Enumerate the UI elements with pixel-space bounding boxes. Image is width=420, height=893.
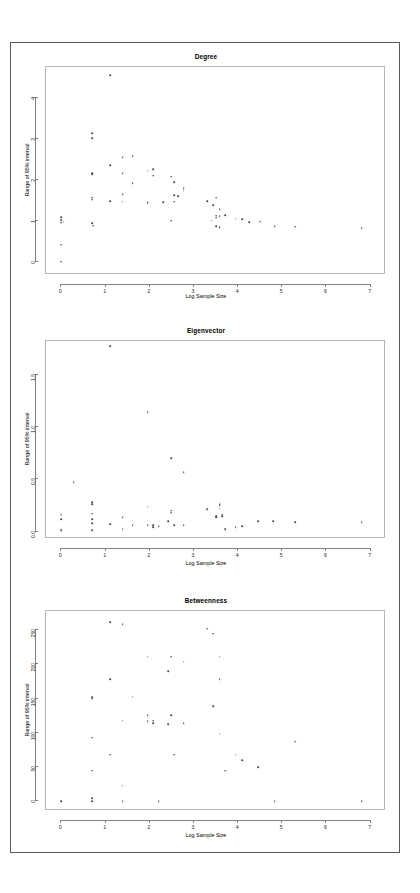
y-axis-tick-label: 150 bbox=[30, 698, 36, 706]
data-point bbox=[219, 209, 221, 211]
data-point bbox=[122, 800, 124, 802]
scatter-points-betweenness bbox=[46, 611, 384, 809]
y-axis-tick-label: 3 bbox=[30, 138, 36, 141]
data-point bbox=[147, 656, 149, 658]
x-axis-tick bbox=[105, 820, 106, 823]
data-point bbox=[162, 202, 164, 204]
data-point bbox=[170, 220, 172, 222]
data-point bbox=[122, 516, 124, 518]
x-axis-tick bbox=[237, 284, 238, 287]
data-point bbox=[183, 525, 185, 527]
data-point bbox=[206, 509, 208, 511]
data-point bbox=[61, 800, 63, 802]
x-axis-tick bbox=[105, 284, 106, 287]
data-point bbox=[174, 194, 176, 196]
data-point bbox=[122, 720, 124, 722]
data-point bbox=[361, 521, 363, 523]
data-point bbox=[109, 164, 111, 166]
data-point bbox=[215, 516, 217, 518]
plot-area-degree bbox=[45, 66, 385, 274]
data-point bbox=[122, 193, 124, 195]
data-point bbox=[91, 504, 93, 506]
data-point bbox=[158, 800, 160, 802]
plot-area-betweenness bbox=[45, 610, 385, 810]
data-point bbox=[183, 190, 185, 192]
x-axis-tick-label: 5 bbox=[280, 824, 283, 830]
x-axis-tick bbox=[193, 548, 194, 551]
data-point bbox=[170, 714, 172, 716]
data-point bbox=[91, 800, 93, 802]
y-axis-tick-label: 0.5 bbox=[30, 478, 36, 485]
data-point bbox=[361, 227, 363, 229]
data-point bbox=[109, 200, 111, 202]
data-point bbox=[219, 504, 221, 506]
data-point bbox=[109, 679, 111, 681]
data-point bbox=[91, 518, 93, 520]
data-point bbox=[215, 217, 217, 219]
x-axis-tick bbox=[370, 820, 371, 823]
data-point bbox=[132, 156, 134, 158]
data-point bbox=[206, 628, 208, 630]
panel-eigenvector: Eigenvector 012345670.00.51.01.5 Log Sam… bbox=[11, 315, 401, 585]
data-point bbox=[174, 525, 176, 527]
data-point bbox=[91, 513, 93, 515]
data-point bbox=[122, 785, 124, 787]
data-point bbox=[235, 527, 237, 529]
data-point bbox=[170, 512, 172, 514]
panel-betweenness: Betweenness 01234567050100150200250 Log … bbox=[11, 585, 401, 854]
data-point bbox=[183, 471, 185, 473]
y-axis-tick-label: 0 bbox=[30, 800, 36, 803]
x-axis-tick bbox=[281, 284, 282, 287]
data-point bbox=[361, 800, 363, 802]
data-point bbox=[153, 720, 155, 722]
data-point bbox=[109, 74, 111, 76]
y-axis-tick-label: 100 bbox=[30, 732, 36, 740]
data-point bbox=[61, 216, 63, 218]
data-point bbox=[63, 221, 65, 223]
x-axis-title-degree: Log Sample Size bbox=[11, 293, 401, 299]
data-point bbox=[122, 172, 124, 174]
data-point bbox=[109, 345, 111, 347]
x-axis-tick-label: 0 bbox=[59, 824, 62, 830]
data-point bbox=[183, 188, 185, 190]
x-axis-tick bbox=[149, 820, 150, 823]
y-axis-title-betweenness: Range of 95% interval bbox=[24, 683, 30, 736]
x-axis-tick-label: 6 bbox=[324, 824, 327, 830]
y-axis-tick-label: 4 bbox=[30, 97, 36, 100]
x-axis-tick bbox=[237, 548, 238, 551]
x-axis-tick bbox=[193, 284, 194, 287]
document-frame: Degree 0123456701234 Log Sample Size Ran… bbox=[10, 42, 400, 853]
y-axis-tick-label: 1.0 bbox=[30, 426, 36, 433]
data-point bbox=[73, 482, 75, 484]
data-point bbox=[147, 720, 149, 722]
data-point bbox=[177, 195, 179, 197]
x-axis-line bbox=[60, 548, 369, 549]
data-point bbox=[153, 723, 155, 725]
data-point bbox=[147, 203, 149, 205]
data-point bbox=[274, 225, 276, 227]
data-point bbox=[219, 656, 221, 658]
y-axis-tick-label: 250 bbox=[30, 629, 36, 637]
data-point bbox=[91, 174, 93, 176]
data-point bbox=[235, 218, 237, 220]
data-point bbox=[153, 175, 155, 177]
x-axis-tick bbox=[281, 820, 282, 823]
data-point bbox=[219, 227, 221, 229]
data-point bbox=[61, 518, 63, 520]
x-axis-tick bbox=[149, 548, 150, 551]
x-axis-tick bbox=[149, 284, 150, 287]
data-point bbox=[91, 199, 93, 201]
x-axis-tick-label: 5 bbox=[280, 552, 283, 558]
x-axis-tick-label: 2 bbox=[147, 552, 150, 558]
x-axis-tick bbox=[60, 820, 61, 823]
data-point bbox=[224, 214, 226, 216]
x-axis-tick-label: 2 bbox=[147, 824, 150, 830]
data-point bbox=[174, 181, 176, 183]
data-point bbox=[170, 656, 172, 658]
data-point bbox=[219, 733, 221, 735]
x-axis-tick-label: 0 bbox=[59, 552, 62, 558]
data-point bbox=[147, 506, 149, 508]
y-axis-line bbox=[35, 374, 36, 531]
data-point bbox=[170, 176, 172, 178]
y-axis-tick-label: 0.0 bbox=[30, 531, 36, 538]
